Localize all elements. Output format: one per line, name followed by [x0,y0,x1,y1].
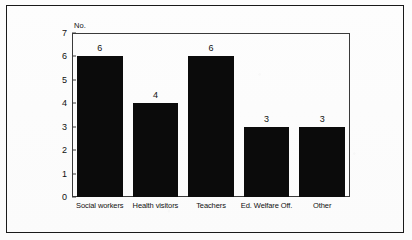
y-tick-mark [72,126,76,127]
y-tick-label: 0 [62,192,67,202]
y-tick-mark [72,150,76,151]
y-tick-mark [72,173,76,174]
y-tick-mark [72,56,76,57]
bar-value-label: 6 [208,43,213,53]
y-axis-label: No. [74,21,86,30]
bar [133,103,179,197]
bar-value-label: 6 [97,43,102,53]
bar [299,127,345,197]
y-tick-label: 3 [62,122,67,132]
x-category-label: Health visitors [133,201,179,210]
x-category-label: Social workers [76,201,123,210]
y-tick-label: 4 [62,98,67,108]
bar-value-label: 3 [320,114,325,124]
page-background: No. 01234567 64633 Social workersHealth … [0,0,412,240]
y-tick-mark [72,79,76,80]
y-tick-label: 1 [62,169,67,179]
x-category-label: Ed. Welfare Off. [241,201,292,210]
bar [77,56,123,197]
y-tick-mark [72,103,76,104]
x-category-label: Other [313,201,331,210]
y-tick-label: 6 [62,51,67,61]
y-tick-label: 5 [62,75,67,85]
plot-area: 01234567 64633 [72,33,350,197]
bar-value-label: 3 [264,114,269,124]
x-category-label: Teachers [196,201,226,210]
y-tick-label: 2 [62,145,67,155]
y-tick-mark [72,33,76,34]
bar [244,127,290,197]
bar-value-label: 4 [153,90,158,100]
bar [188,56,234,197]
y-tick-mark [72,197,76,198]
y-tick-label: 7 [62,28,67,38]
